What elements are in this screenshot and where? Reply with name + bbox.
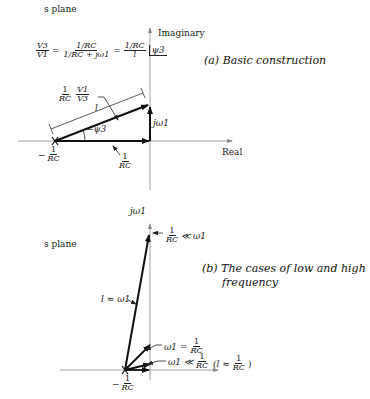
panel-a-angle-arc	[83, 130, 85, 141]
high-freq-label: 1RC ≪ ω1	[165, 227, 206, 244]
panel-b-jw-axis-label: jω1	[130, 206, 146, 216]
low-label: ω1 ≪ 1RC	[168, 353, 209, 370]
transfer-function-equation: V3 V1 = 1/RC 1/RC + jω1 = 1/RC l ψ3	[36, 42, 167, 59]
jw-label: jω1	[153, 118, 169, 128]
angle-label: −ψ3	[86, 124, 106, 134]
low-prefix: ω1 ≪	[168, 357, 193, 367]
high-den: RC	[165, 236, 179, 244]
panel-b-plane-label: s plane	[44, 239, 77, 249]
low-approx-prefix: (l ≈	[213, 359, 230, 369]
angle-symbol: ψ3	[149, 45, 167, 56]
mid-denominator: 1/RC + jω1	[62, 51, 110, 59]
panel-a-leader	[98, 97, 118, 120]
equals-sign: =	[52, 46, 60, 56]
minus-sign: −	[38, 150, 46, 160]
pole-den-b: RC	[121, 384, 135, 392]
minus-sign-b: −	[112, 379, 120, 389]
hyp-vector-label: 1RC V1V3	[58, 86, 89, 103]
real-seg-den: RC	[118, 162, 132, 170]
equal-prefix: ω1 =	[164, 342, 187, 352]
real-seg-label: 1RC	[118, 151, 132, 170]
panel-b-low-leader	[148, 361, 166, 364]
low-approx-den: RC	[232, 364, 246, 372]
panel-b-caption-line1: (b) The cases of low and high	[202, 262, 366, 275]
pole-label-b: − 1RC	[112, 375, 135, 392]
hyp-label-den: RC	[58, 95, 72, 103]
real-axis-label: Real	[222, 147, 242, 157]
imaginary-axis-label: Imaginary	[158, 28, 205, 38]
equals-sign-2: =	[113, 46, 121, 56]
panel-b-caption-line2: frequency	[222, 276, 278, 289]
low-approx-suffix: )	[248, 359, 252, 369]
high-relation: ≪ ω1	[181, 231, 206, 241]
rhs-fraction: 1/RC l	[124, 42, 146, 59]
lhs-fraction: V3 V1	[36, 42, 49, 59]
low-den: RC	[195, 362, 209, 370]
rhs-denominator: l	[132, 51, 137, 59]
pole-label-a: − 1RC	[38, 146, 61, 163]
panel-a-plane-label: s plane	[44, 4, 77, 14]
hyp-label-den-2: V3	[76, 95, 89, 103]
approx-label: l ≈ ω1	[101, 294, 130, 304]
length-label: l	[95, 103, 98, 113]
lhs-denominator: V1	[36, 51, 49, 59]
mid-fraction: 1/RC 1/RC + jω1	[62, 42, 110, 59]
panel-a-hyp-vector	[55, 105, 148, 141]
panel-a-caption: (a) Basic construction	[204, 54, 326, 67]
pole-den: RC	[47, 155, 61, 163]
low-approx-label: (l ≈ 1RC )	[213, 355, 251, 372]
